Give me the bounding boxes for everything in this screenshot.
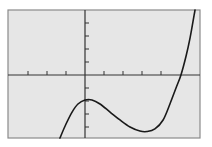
function-graph xyxy=(0,0,212,147)
